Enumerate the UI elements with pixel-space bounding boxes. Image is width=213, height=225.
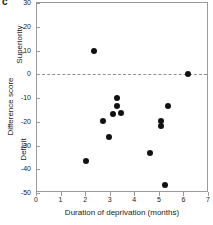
x-axis-tick-label: 3 xyxy=(108,196,112,204)
y-axis-tick-label: -10 xyxy=(21,94,31,101)
y-axis-tick xyxy=(37,146,40,147)
x-axis-tick-labels: 01234567 xyxy=(36,196,208,206)
y-axis-tick xyxy=(37,98,40,99)
x-axis-tick-label: 7 xyxy=(206,196,210,204)
y-axis-title: Difference score xyxy=(6,64,15,150)
y-axis-tick xyxy=(37,3,40,4)
x-axis-tick-label: 6 xyxy=(181,196,185,204)
y-axis-tick-label: -20 xyxy=(21,117,31,124)
y-axis-tick xyxy=(37,74,40,75)
y-axis-tick xyxy=(37,27,40,28)
y-axis-superiority-label: Superiority xyxy=(15,17,24,73)
y-axis-tick-label: 30 xyxy=(23,0,31,6)
x-axis-tick-label: 4 xyxy=(132,196,136,204)
y-axis-tick-label: -50 xyxy=(21,189,31,196)
y-axis-tick-label: 10 xyxy=(23,46,31,53)
plot-frame xyxy=(36,2,208,192)
y-axis-deficit-label: Deficit xyxy=(19,129,28,171)
scatter-plot-figure: c 3020100-10-20-30-40-50 Difference scor… xyxy=(0,0,213,225)
y-axis-tick xyxy=(37,169,40,170)
x-axis-tick-label: 5 xyxy=(157,196,161,204)
x-axis-tick-label: 1 xyxy=(59,196,63,204)
x-axis-title: Duration of deprivation (months) xyxy=(36,208,208,217)
y-axis-ticks xyxy=(37,3,207,191)
y-axis-tick xyxy=(37,122,40,123)
y-axis-tick xyxy=(37,51,40,52)
x-axis-tick-label: 0 xyxy=(34,196,38,204)
y-axis-tick-label: 0 xyxy=(27,70,31,77)
x-axis-tick-label: 2 xyxy=(83,196,87,204)
y-axis-tick-label: 20 xyxy=(23,22,31,29)
